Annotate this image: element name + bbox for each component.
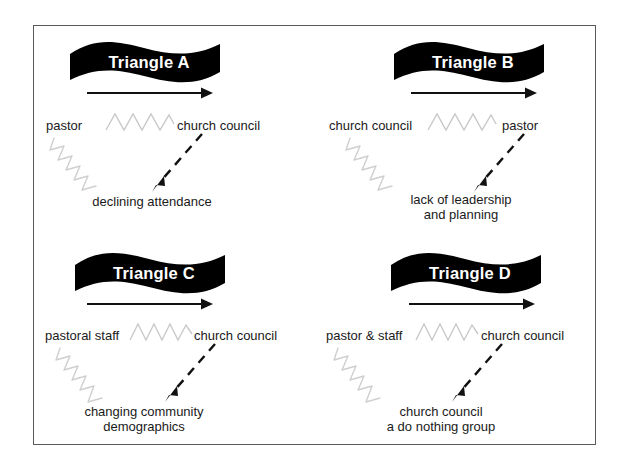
tension-squiggle-d	[416, 322, 478, 342]
process-arrow-c	[87, 297, 213, 311]
process-arrow-b	[411, 86, 537, 100]
tension-squiggle-a	[106, 112, 174, 132]
outcome-label-a: declining attendance	[52, 194, 252, 209]
lightning-zigzag-b	[344, 136, 408, 196]
triangle-panel-c: Triangle C pastoral staff church council	[34, 236, 316, 446]
banner-triangle-c: Triangle C	[75, 253, 225, 295]
role-left-b: church council	[329, 118, 412, 133]
triangle-panel-b: Triangle B church council pastor	[316, 26, 597, 236]
banner-triangle-d: Triangle D	[391, 253, 541, 295]
lightning-zigzag-c	[54, 346, 118, 408]
role-left-a: pastor	[46, 118, 82, 133]
role-right-a: church council	[177, 118, 260, 133]
role-right-c: church council	[194, 328, 277, 343]
banner-triangle-a: Triangle A	[70, 42, 220, 84]
diagram-frame: Triangle A pastor church council	[33, 25, 596, 445]
triangle-panel-d: Triangle D pastor & staff church council	[316, 236, 597, 446]
dashed-arrow-c	[159, 342, 221, 404]
role-left-c: pastoral staff	[45, 328, 119, 343]
dashed-arrow-a	[146, 132, 208, 194]
banner-triangle-b: Triangle B	[394, 42, 544, 84]
outcome-label-d: church council a do nothing group	[341, 404, 541, 434]
lightning-zigzag-a	[48, 136, 112, 196]
outcome-label-c: changing community demographics	[44, 404, 244, 434]
lightning-zigzag-d	[332, 346, 396, 408]
outcome-label-b: lack of leadership and planning	[366, 192, 556, 222]
role-left-d: pastor & staff	[326, 328, 402, 343]
role-right-b: pastor	[502, 118, 538, 133]
dashed-arrow-d	[446, 342, 508, 404]
tension-squiggle-b	[428, 112, 496, 132]
dashed-arrow-b	[468, 132, 530, 194]
triangle-panel-a: Triangle A pastor church council	[34, 26, 316, 236]
role-right-d: church council	[481, 328, 564, 343]
tension-squiggle-c	[130, 322, 192, 342]
process-arrow-a	[87, 86, 213, 100]
process-arrow-d	[409, 297, 535, 311]
